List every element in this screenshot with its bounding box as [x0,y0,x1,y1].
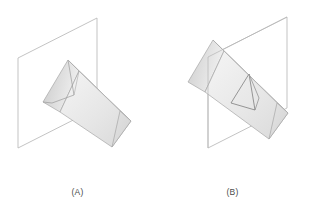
panel-b-illustration [155,0,310,217]
panel-a-illustration [0,0,155,217]
figure-panel-b: (B) [155,0,310,217]
figure-panel-a: (A) [0,0,155,217]
panel-b-caption: (B) [155,188,310,197]
plane-front-trace-b [208,17,287,57]
figure-board: (A) [0,0,311,217]
panel-a-caption: (A) [0,188,155,197]
